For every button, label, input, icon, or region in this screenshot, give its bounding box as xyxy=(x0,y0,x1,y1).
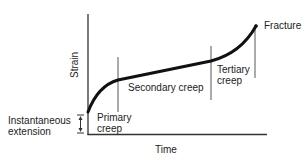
fracture-label: Fracture xyxy=(264,20,301,31)
fracture-point xyxy=(254,24,258,28)
tertiary-creep-label-line1: Tertiary xyxy=(217,64,250,75)
x-axis-label: Time xyxy=(155,144,177,155)
instantaneous-extension-arrow-icon xyxy=(77,115,84,133)
instantaneous-extension-label-line2: extension xyxy=(8,126,51,137)
secondary-creep-label: Secondary creep xyxy=(128,82,204,93)
instantaneous-extension-label-line1: Instantaneous xyxy=(8,115,71,126)
primary-creep-label-line1: Primary xyxy=(97,112,131,123)
primary-creep-label-line2: creep xyxy=(97,123,122,134)
y-axis-label: Strain xyxy=(69,52,80,78)
tertiary-creep-label-line2: creep xyxy=(217,75,242,86)
